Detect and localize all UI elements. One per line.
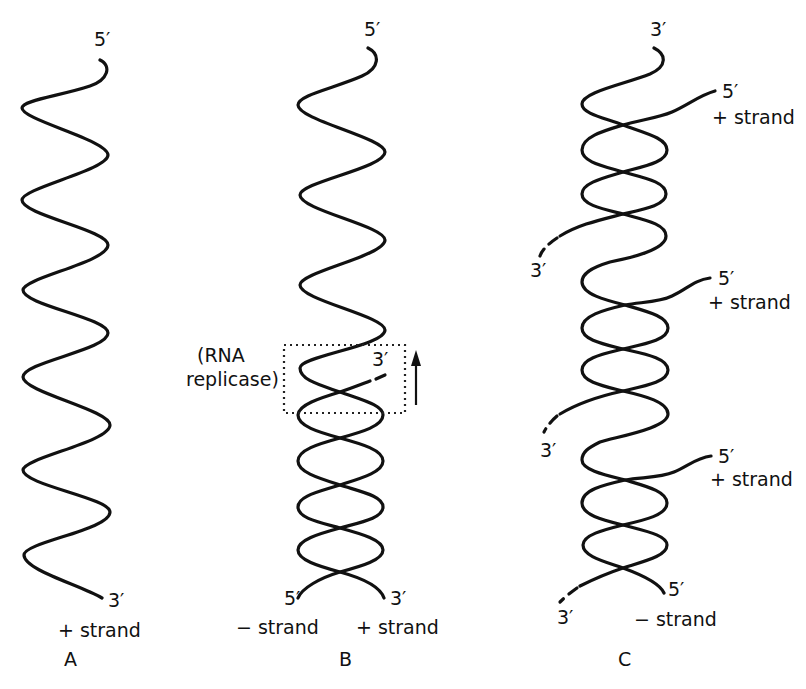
- panel-c-strand-3-3prime-label: 3′: [557, 606, 573, 628]
- panel-c-minus-strand-label: − strand: [634, 608, 717, 630]
- panel-c-top-end-label: 3′: [650, 18, 666, 40]
- panel-c-strand-3-5prime-label: 5′: [718, 445, 734, 467]
- panel-c-plus-strand-2-end: [544, 416, 557, 432]
- panel-a-bottom-end-label: 3′: [108, 589, 124, 611]
- panel-b-plus-strand: [298, 48, 385, 598]
- panel-c-minus-strand: [582, 48, 668, 593]
- panel-c-strand-3-label: + strand: [710, 468, 793, 490]
- panel-c-plus-strand-1-end: [540, 238, 557, 256]
- panel-c-plus-strand-3: [580, 456, 711, 586]
- panel-a-top-end-label: 5′: [94, 28, 110, 50]
- panel-b-growing-end: [376, 375, 385, 379]
- panel-b-bottom-left-end-label: 5′: [284, 587, 300, 609]
- replicase-label-line1: (RNA: [197, 344, 245, 366]
- panel-b-letter: B: [339, 648, 352, 670]
- panel-b: (RNA replicase) 3′ 5′ 5′ 3′ − strand + s…: [186, 18, 439, 670]
- panel-a-strand-label: + strand: [58, 619, 141, 641]
- panel-c-plus-strand-3-end: [560, 588, 577, 602]
- replicase-label-line2: replicase): [186, 368, 279, 390]
- panel-a-plus-strand: [22, 60, 110, 598]
- arrow-head-icon: [411, 350, 421, 366]
- panel-b-plus-strand-label: + strand: [356, 616, 439, 638]
- panel-c-plus-strand-1: [560, 91, 715, 236]
- panel-b-top-end-label: 5′: [364, 18, 380, 40]
- panel-a: 5′ 3′ + strand A: [22, 28, 141, 670]
- panel-b-minus-strand-label: − strand: [236, 616, 319, 638]
- panel-b-growing-end-label: 3′: [372, 348, 388, 370]
- replication-diagram: 5′ 3′ + strand A (RNA replicase) 3′ 5′ 5…: [0, 0, 806, 689]
- panel-b-bottom-right-end-label: 3′: [390, 587, 406, 609]
- panel-c-strand-2-5prime-label: 5′: [718, 267, 734, 289]
- panel-c: 3′ 5′ + strand 3′ 5′ + strand 3′ 5′ + st…: [530, 18, 795, 670]
- panel-c-strand-1-5prime-label: 5′: [722, 80, 738, 102]
- panel-c-strand-2-label: + strand: [708, 291, 791, 313]
- panel-c-letter: C: [618, 648, 631, 670]
- panel-c-strand-2-3prime-label: 3′: [540, 439, 556, 461]
- panel-a-letter: A: [64, 648, 77, 670]
- panel-c-strand-1-3prime-label: 3′: [530, 259, 546, 281]
- panel-c-bottom-end-label: 5′: [668, 578, 684, 600]
- panel-c-strand-1-label: + strand: [712, 106, 795, 128]
